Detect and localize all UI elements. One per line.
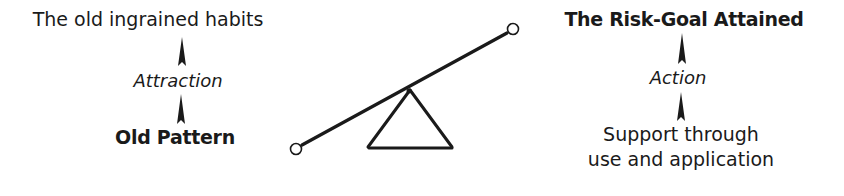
seesaw-diagram	[0, 0, 844, 196]
arrow-up-icon	[178, 37, 186, 66]
arrow-up-icon	[678, 33, 686, 64]
arrow-up-icon	[177, 94, 185, 124]
fulcrum-triangle-icon	[368, 89, 452, 149]
arrow-up-icon	[677, 92, 685, 121]
left-end-circle-icon	[291, 144, 302, 155]
right-end-circle-icon	[508, 24, 519, 35]
lever-beam	[302, 33, 507, 145]
